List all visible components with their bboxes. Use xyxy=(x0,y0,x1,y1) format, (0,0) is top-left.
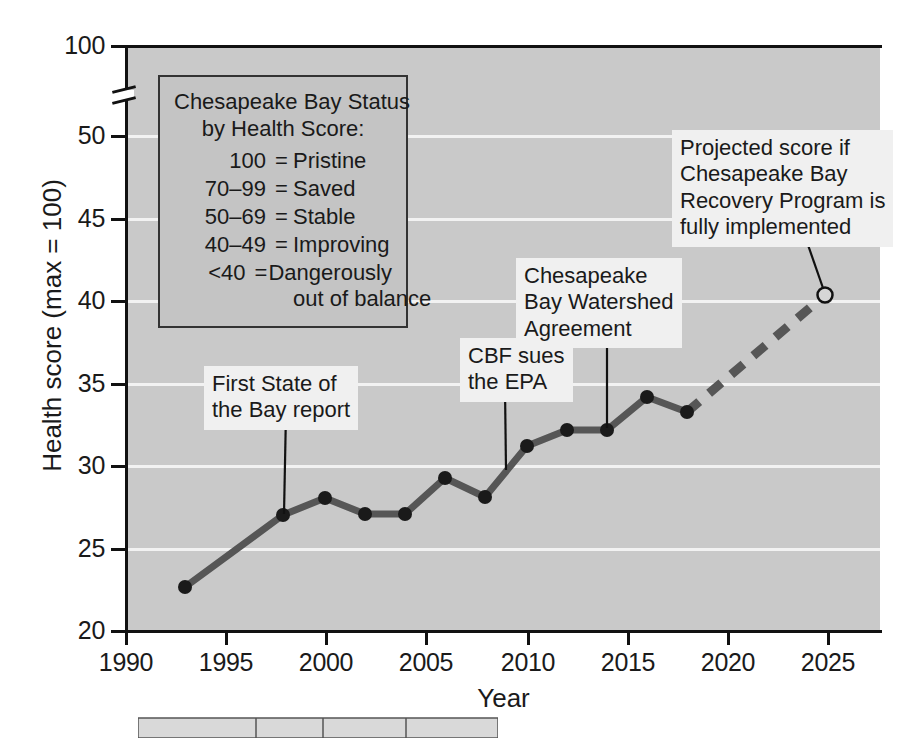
status-key-equals: = xyxy=(275,204,293,230)
x-tick-1995 xyxy=(225,630,228,645)
x-tick-2010 xyxy=(527,630,530,645)
y-tick-50 xyxy=(111,135,126,138)
x-axis-line xyxy=(125,630,882,633)
status-key-range: <40 xyxy=(174,260,255,286)
x-tick-label-1990: 1990 xyxy=(81,648,171,677)
annotation-line: the EPA xyxy=(468,369,565,395)
gridline-25 xyxy=(125,548,880,551)
annotation-line: Recovery Program is xyxy=(680,188,885,214)
status-key-range: 100 xyxy=(174,148,275,174)
annotation-line: Chesapeake Bay xyxy=(680,161,885,187)
y-tick-45 xyxy=(111,218,126,221)
annotation-line: Bay Watershed xyxy=(524,289,674,315)
x-tick-label-2015: 2015 xyxy=(583,648,673,677)
annotation-projected-score: Projected score if Chesapeake Bay Recove… xyxy=(672,130,893,247)
x-tick-label-1995: 1995 xyxy=(181,648,271,677)
status-key-range: 40–49 xyxy=(174,232,275,258)
x-tick-2000 xyxy=(325,630,328,645)
annotation-first-state-of-the-bay: First State of the Bay report xyxy=(204,366,358,430)
status-key-label: Saved xyxy=(293,176,392,202)
status-key-equals: = xyxy=(275,176,293,202)
x-tick-1990 xyxy=(125,630,128,645)
annotation-watershed-agreement: Chesapeake Bay Watershed Agreement xyxy=(516,258,682,348)
status-key-label: Pristine xyxy=(293,148,392,174)
annotation-line: Projected score if xyxy=(680,135,885,161)
status-key-row-pristine: 100 = Pristine xyxy=(174,148,392,174)
partial-table-fragment xyxy=(138,706,498,738)
y-tick-25 xyxy=(111,548,126,551)
annotation-line: First State of xyxy=(212,371,350,397)
annotation-line: the Bay report xyxy=(212,397,350,423)
annotation-line: Agreement xyxy=(524,316,674,342)
chart-page: 100 50 45 40 35 30 25 20 1990 1995 2000 … xyxy=(0,0,920,738)
annotation-line: fully implemented xyxy=(680,214,885,240)
y-axis-upper-segment xyxy=(125,45,128,92)
x-tick-label-2025: 2025 xyxy=(783,648,873,677)
y-axis-title: Health score (max = 100) xyxy=(37,46,68,606)
plot-top-border xyxy=(125,45,882,48)
status-key-range: 70–99 xyxy=(174,176,275,202)
x-tick-2015 xyxy=(627,630,630,645)
y-tick-30 xyxy=(111,465,126,468)
annotation-line: Chesapeake xyxy=(524,263,674,289)
y-tick-40 xyxy=(111,300,126,303)
y-tick-35 xyxy=(111,383,126,386)
status-key-continuation: out of balance xyxy=(174,286,392,312)
status-key-label: Improving xyxy=(293,232,392,258)
x-tick-label-2000: 2000 xyxy=(281,648,371,677)
status-key-row-saved: 70–99 = Saved xyxy=(174,176,392,202)
status-key-label: Stable xyxy=(293,204,392,230)
status-key-equals: = xyxy=(275,148,293,174)
y-tick-label-20: 20 xyxy=(35,616,105,645)
status-key-equals: = xyxy=(255,260,269,286)
x-tick-label-2005: 2005 xyxy=(381,648,471,677)
x-tick-label-2010: 2010 xyxy=(483,648,573,677)
status-key-range: 50–69 xyxy=(174,204,275,230)
x-tick-2020 xyxy=(727,630,730,645)
status-key-box: Chesapeake Bay Status by Health Score: 1… xyxy=(158,75,408,328)
gridline-30 xyxy=(125,465,880,468)
x-tick-label-2020: 2020 xyxy=(683,648,773,677)
y-axis-lower-segment xyxy=(125,100,128,632)
y-tick-100 xyxy=(111,45,126,48)
status-key-row-improving: 40–49 = Improving xyxy=(174,232,392,258)
y-tick-20 xyxy=(111,630,126,633)
status-key-equals: = xyxy=(275,232,293,258)
status-key-row-stable: 50–69 = Stable xyxy=(174,204,392,230)
status-key-title-line1: Chesapeake Bay Status xyxy=(174,89,392,115)
x-tick-2005 xyxy=(425,630,428,645)
x-tick-2025 xyxy=(827,630,830,645)
status-key-row-dangerous: <40 = Dangerously xyxy=(174,260,392,286)
status-key-label: Dangerously xyxy=(268,260,392,286)
status-key-title-line2: by Health Score: xyxy=(174,116,392,142)
